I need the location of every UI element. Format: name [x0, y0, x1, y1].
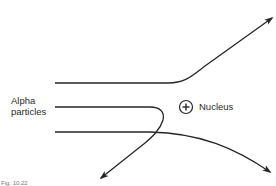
alpha-particles-label: Alpha particles	[11, 95, 46, 117]
trajectory-backscattered	[55, 107, 163, 178]
scattering-diagram	[0, 0, 276, 186]
trajectory-deflected-down	[55, 132, 270, 172]
alpha-label-line2: particles	[11, 106, 46, 117]
nucleus-icon	[180, 101, 193, 114]
nucleus-label: Nucleus	[199, 101, 233, 112]
trajectory-deflected-up	[55, 18, 272, 83]
figure-caption: Fig. 10.22	[1, 180, 28, 186]
alpha-label-line1: Alpha	[11, 95, 46, 106]
